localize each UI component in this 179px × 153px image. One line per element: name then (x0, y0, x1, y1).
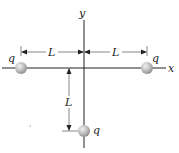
charge-bottom (78, 125, 90, 137)
charge-label-left: q (8, 52, 15, 65)
charge-label-right: q (152, 52, 159, 65)
charge-diagram: y x L L L q q q ' (0, 0, 179, 153)
dim-label-right: L (111, 46, 119, 59)
stray-mark: ' (29, 123, 31, 132)
dim-label-left: L (47, 46, 55, 59)
x-axis-label: x (168, 62, 175, 75)
dim-label-vertical: L (64, 96, 72, 109)
charge-left (15, 62, 27, 74)
y-axis-label: y (78, 7, 86, 20)
charge-label-bottom: q (93, 124, 100, 137)
